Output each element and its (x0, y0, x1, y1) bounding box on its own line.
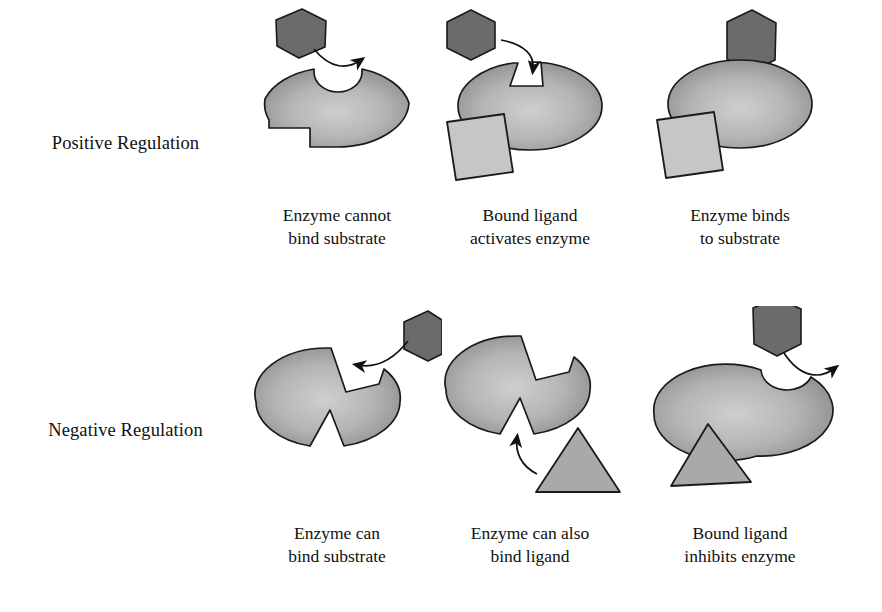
caption-line-1: Enzyme can also (419, 522, 641, 545)
substrate-hexagon (276, 9, 326, 58)
binding-arrow (314, 49, 361, 66)
binding-arrow (517, 438, 537, 474)
ligand-triangle (536, 428, 620, 492)
caption-line-2: bind substrate (226, 545, 448, 568)
ligand-square (447, 114, 513, 180)
panel-negative-3-caption: Bound ligand inhibits enzyme (629, 522, 851, 569)
panel-positive-2-caption: Bound ligand activates enzyme (419, 204, 641, 251)
panel-negative-3-art (635, 306, 845, 516)
panel-positive-1: Enzyme cannot bind substrate (232, 0, 442, 306)
panel-positive-1-caption: Enzyme cannot bind substrate (226, 204, 448, 251)
enzyme-body (265, 69, 409, 147)
panel-negative-1-caption: Enzyme can bind substrate (226, 522, 448, 569)
caption-line-2: bind substrate (226, 227, 448, 250)
caption-line-2: inhibits enzyme (629, 545, 851, 568)
row-negative-regulation: Negative Regulation (0, 306, 882, 612)
caption-line-1: Bound ligand (629, 522, 851, 545)
enzyme-body (255, 348, 400, 446)
binding-arrow (357, 341, 408, 366)
panel-negative-2-art (425, 306, 635, 516)
row-label-positive: Positive Regulation (18, 132, 233, 154)
caption-line-2: bind ligand (419, 545, 641, 568)
enzyme-body (654, 364, 833, 460)
caption-line-1: Enzyme binds (629, 204, 851, 227)
allosteric-regulation-figure: Positive Regulation (0, 0, 882, 612)
caption-line-2: to substrate (629, 227, 851, 250)
panel-positive-3-art (635, 0, 845, 210)
caption-line-2: activates enzyme (419, 227, 641, 250)
panel-positive-1-art (232, 0, 442, 210)
caption-line-1: Bound ligand (419, 204, 641, 227)
enzyme-body (445, 336, 590, 434)
ligand-square (657, 112, 723, 178)
panel-negative-2-caption: Enzyme can also bind ligand (419, 522, 641, 569)
panel-positive-2: Bound ligand activates enzyme (425, 0, 635, 306)
panel-negative-3: Bound ligand inhibits enzyme (635, 306, 845, 612)
caption-line-1: Enzyme cannot (226, 204, 448, 227)
substrate-hexagon (753, 306, 801, 356)
substrate-hexagon (447, 10, 495, 60)
panel-positive-3-caption: Enzyme binds to substrate (629, 204, 851, 251)
row-label-negative: Negative Regulation (18, 419, 233, 441)
panel-negative-1-art (232, 306, 442, 516)
panel-negative-2: Enzyme can also bind ligand (425, 306, 635, 612)
panel-positive-3: Enzyme binds to substrate (635, 0, 845, 306)
panel-negative-1: Enzyme can bind substrate (232, 306, 442, 612)
rejection-arrow (784, 353, 835, 375)
row-positive-regulation: Positive Regulation (0, 0, 882, 306)
caption-line-1: Enzyme can (226, 522, 448, 545)
panel-positive-2-art (425, 0, 635, 210)
